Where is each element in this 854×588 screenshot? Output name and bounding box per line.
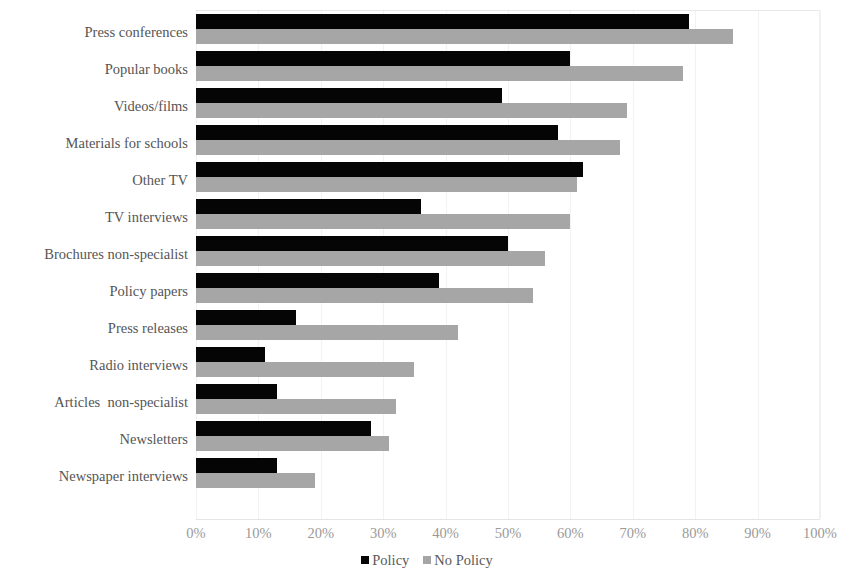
bar-policy: [196, 125, 558, 140]
bar-policy: [196, 421, 371, 436]
category-label: Newspaper interviews: [0, 462, 188, 490]
bar-policy: [196, 236, 508, 251]
category-label: Radio interviews: [0, 351, 188, 379]
chart-row: Articles non-specialist: [0, 384, 854, 421]
bar-policy: [196, 162, 583, 177]
chart-row: Press releases: [0, 310, 854, 347]
legend-swatch-icon: [423, 556, 431, 564]
category-label: Newsletters: [0, 425, 188, 453]
bar-no-policy: [196, 325, 458, 340]
category-label: Press conferences: [0, 18, 188, 46]
category-label: Materials for schools: [0, 129, 188, 157]
legend-label: Policy: [372, 550, 409, 570]
chart-row: Other TV: [0, 162, 854, 199]
x-axis: 0%10%20%30%40%50%60%70%80%90%100%: [0, 522, 854, 544]
category-label: Popular books: [0, 55, 188, 83]
chart-row: TV interviews: [0, 199, 854, 236]
legend-item[interactable]: Policy: [361, 550, 409, 570]
bar-no-policy: [196, 214, 570, 229]
bar-policy: [196, 14, 689, 29]
legend-swatch-icon: [361, 556, 369, 564]
bar-no-policy: [196, 140, 620, 155]
x-axis-tick-label: 100%: [790, 522, 850, 544]
bar-policy: [196, 51, 570, 66]
bar-no-policy: [196, 66, 683, 81]
chart-row: Press conferences: [0, 14, 854, 51]
chart-row: Popular books: [0, 51, 854, 88]
chart-row: Newsletters: [0, 421, 854, 458]
category-rows: Press conferencesPopular booksVideos/fil…: [0, 14, 854, 495]
bar-no-policy: [196, 251, 545, 266]
x-axis-tick-label: 10%: [228, 522, 288, 544]
bar-policy: [196, 88, 502, 103]
bar-no-policy: [196, 399, 396, 414]
x-axis-tick-label: 30%: [353, 522, 413, 544]
x-axis-tick-label: 70%: [603, 522, 663, 544]
bar-no-policy: [196, 436, 389, 451]
category-label: Brochures non-specialist: [0, 240, 188, 268]
chart-row: Policy papers: [0, 273, 854, 310]
chart-row: Videos/films: [0, 88, 854, 125]
legend-item[interactable]: No Policy: [423, 550, 492, 570]
legend-label: No Policy: [434, 550, 492, 570]
chart-row: Brochures non-specialist: [0, 236, 854, 273]
bar-chart: Press conferencesPopular booksVideos/fil…: [0, 0, 854, 588]
bar-no-policy: [196, 473, 315, 488]
bar-policy: [196, 199, 421, 214]
x-axis-tick-label: 40%: [416, 522, 476, 544]
x-axis-tick-label: 60%: [540, 522, 600, 544]
x-axis-tick-label: 90%: [728, 522, 788, 544]
bar-policy: [196, 384, 277, 399]
category-label: Policy papers: [0, 277, 188, 305]
x-axis-tick-label: 50%: [478, 522, 538, 544]
bar-no-policy: [196, 103, 627, 118]
category-label: TV interviews: [0, 203, 188, 231]
bar-policy: [196, 347, 265, 362]
category-label: Articles non-specialist: [0, 388, 188, 416]
bar-policy: [196, 273, 439, 288]
x-axis-tick-label: 0%: [166, 522, 226, 544]
chart-legend: PolicyNo Policy: [0, 550, 854, 570]
x-axis-tick-label: 80%: [665, 522, 725, 544]
bar-policy: [196, 310, 296, 325]
bar-policy: [196, 458, 277, 473]
bar-no-policy: [196, 177, 577, 192]
bar-no-policy: [196, 29, 733, 44]
category-label: Videos/films: [0, 92, 188, 120]
x-axis-tick-label: 20%: [291, 522, 351, 544]
chart-row: Materials for schools: [0, 125, 854, 162]
bar-no-policy: [196, 288, 533, 303]
category-label: Other TV: [0, 166, 188, 194]
chart-row: Newspaper interviews: [0, 458, 854, 495]
bar-no-policy: [196, 362, 414, 377]
category-label: Press releases: [0, 314, 188, 342]
chart-row: Radio interviews: [0, 347, 854, 384]
